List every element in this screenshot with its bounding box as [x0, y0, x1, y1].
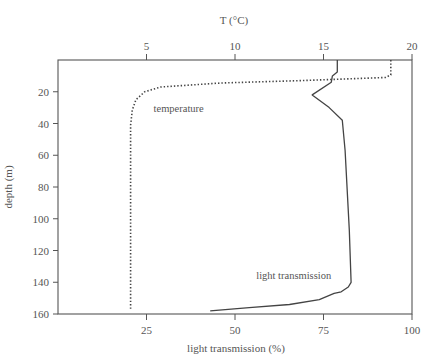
bottom-tick-label: 75 [318, 324, 330, 336]
top-tick-label: 15 [318, 40, 330, 52]
bottom-tick-label: 50 [230, 324, 242, 336]
top-axis-temperature: 5101520 [144, 40, 418, 60]
y-tick-label: 60 [38, 149, 50, 161]
top-tick-label: 20 [407, 40, 419, 52]
top-tick-label: 10 [230, 40, 242, 52]
plot-border [58, 60, 412, 314]
depth-profile-chart: 5101520 255075100 20406080100120140160 t… [0, 0, 437, 364]
y-tick-label: 40 [38, 118, 50, 130]
left-axis-depth: 20406080100120140160 [33, 86, 59, 320]
light-transmission-label: light transmission [256, 270, 332, 281]
bottom-tick-label: 100 [404, 324, 421, 336]
series-lines: temperaturelight transmission [131, 60, 391, 311]
bottom-axis-title: light transmission (%) [187, 342, 285, 355]
y-tick-label: 120 [33, 245, 50, 257]
y-axis-title: depth (m) [2, 165, 15, 208]
y-tick-label: 140 [33, 276, 50, 288]
y-tick-label: 80 [38, 181, 50, 193]
y-tick-label: 100 [33, 213, 50, 225]
top-axis-title: T (°C) [220, 14, 249, 27]
bottom-tick-label: 25 [141, 324, 153, 336]
y-tick-label: 160 [33, 308, 50, 320]
bottom-axis-light-transmission: 255075100 [141, 314, 421, 336]
temperature-label: temperature [154, 103, 204, 114]
plot-frame [58, 60, 412, 314]
y-tick-label: 20 [38, 86, 50, 98]
top-tick-label: 5 [144, 40, 150, 52]
